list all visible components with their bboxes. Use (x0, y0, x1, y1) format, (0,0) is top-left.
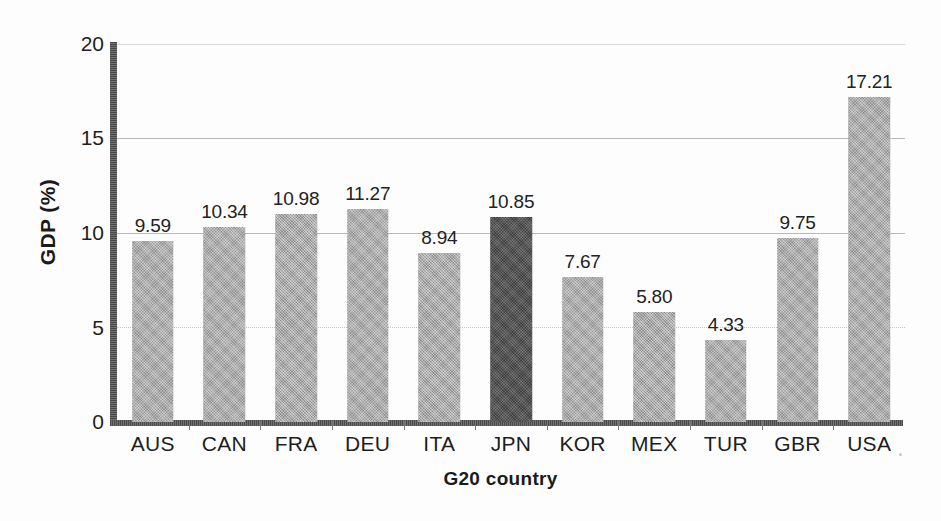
scan-speck (899, 453, 902, 456)
y-tick-20: 20 (60, 32, 104, 56)
x-tick-label-deu: DEU (332, 432, 404, 456)
y-axis-tick-labels: 20 15 10 5 0 (48, 0, 104, 521)
x-axis-tick-labels: AUSCANFRADEUITAJPNKORMEXTURGBRUSA (117, 0, 905, 521)
x-tick-label-jpn: JPN (475, 432, 547, 456)
x-tick-label-kor: KOR (547, 432, 619, 456)
x-tick-label-fra: FRA (260, 432, 332, 456)
y-axis-line (110, 42, 117, 424)
y-tick-5: 5 (60, 316, 104, 340)
x-tick-label-tur: TUR (690, 432, 762, 456)
y-tick-15: 15 (60, 126, 104, 150)
chart-figure: GDP (%) 20 15 10 5 0 9.5910.3410.9811.27… (0, 0, 941, 521)
x-tick-label-mex: MEX (618, 432, 690, 456)
y-tick-0: 0 (60, 410, 104, 434)
x-tick-label-gbr: GBR (762, 432, 834, 456)
y-tick-10: 10 (60, 221, 104, 245)
x-axis-title: G20 country (0, 468, 941, 490)
x-tick-label-aus: AUS (117, 432, 189, 456)
x-tick-label-ita: ITA (404, 432, 476, 456)
x-tick-label-usa: USA (833, 432, 905, 456)
x-tick-label-can: CAN (189, 432, 261, 456)
